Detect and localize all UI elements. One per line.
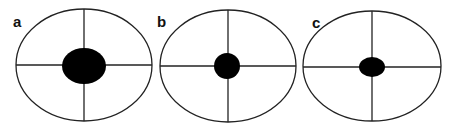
central-spot (359, 57, 385, 77)
panel-c: c (303, 11, 441, 121)
central-spot (214, 53, 240, 79)
panel-label: b (157, 13, 166, 30)
diagram: a b c (0, 0, 456, 128)
panel-a: a (13, 9, 152, 121)
panel-label: a (13, 13, 22, 30)
panel-label: c (312, 14, 320, 31)
panel-b: b (157, 10, 296, 122)
central-spot (62, 48, 106, 84)
